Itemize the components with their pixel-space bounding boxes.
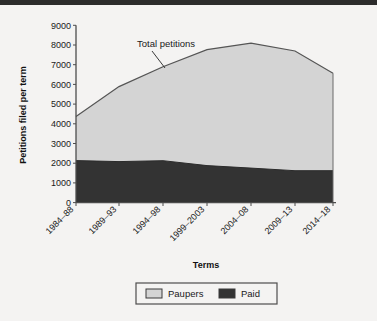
y-tick-label: 8000: [51, 40, 71, 50]
x-tick-label: 2004–08: [219, 204, 251, 236]
y-tick-label: 5000: [51, 99, 71, 109]
x-tick-label: 2014–18: [301, 204, 333, 236]
total-petitions-annotation-label: Total petitions: [137, 38, 195, 49]
x-tick-label: 1994–98: [131, 204, 163, 236]
x-tick-label: 2009–13: [263, 204, 295, 236]
area-paupers: [76, 43, 333, 171]
y-tick-label: 9000: [51, 21, 71, 31]
x-axis-tick-labels: 1984–88 1989–93 1994–98 1999–2003 2004–0…: [44, 204, 333, 243]
legend-label-paid: Paid: [241, 288, 260, 299]
y-tick-label: 6000: [51, 80, 71, 90]
legend-label-paupers: Paupers: [168, 288, 204, 299]
y-tick-label: 4000: [51, 119, 71, 129]
area-chart: 9000 8000 7000 6000 5000 4000 3000 2000 …: [0, 5, 377, 321]
x-tick-label: 1999–2003: [167, 204, 206, 243]
y-tick-label: 2000: [51, 158, 71, 168]
y-axis-tick-labels: 9000 8000 7000 6000 5000 4000 3000 2000 …: [51, 21, 71, 208]
y-tick-label: 1000: [51, 178, 71, 188]
legend-swatch-paid: [219, 289, 235, 298]
y-tick-label: 3000: [51, 139, 71, 149]
x-tick-label: 1989–93: [87, 204, 119, 236]
y-axis-title: Petitions filed per term: [18, 66, 28, 164]
x-axis-title: Terms: [193, 260, 219, 270]
y-tick-label: 7000: [51, 60, 71, 70]
chart-figure: 9000 8000 7000 6000 5000 4000 3000 2000 …: [0, 5, 377, 321]
legend-swatch-paupers: [146, 289, 162, 298]
x-tick-label: 1984–88: [44, 204, 76, 236]
total-petitions-leader-line: [152, 51, 165, 68]
